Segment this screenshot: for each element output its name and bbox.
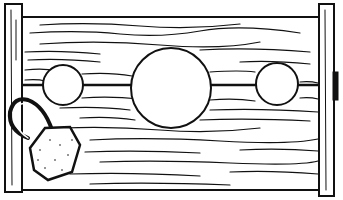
large-hole-center	[131, 48, 211, 128]
small-hole-right	[256, 63, 298, 105]
hinge-icon	[333, 72, 338, 100]
pillory-illustration: Wooden pillory stocks with padlock	[0, 0, 343, 200]
small-hole-left	[43, 65, 83, 105]
right-post	[319, 4, 334, 196]
pillory-drawing	[0, 0, 343, 200]
